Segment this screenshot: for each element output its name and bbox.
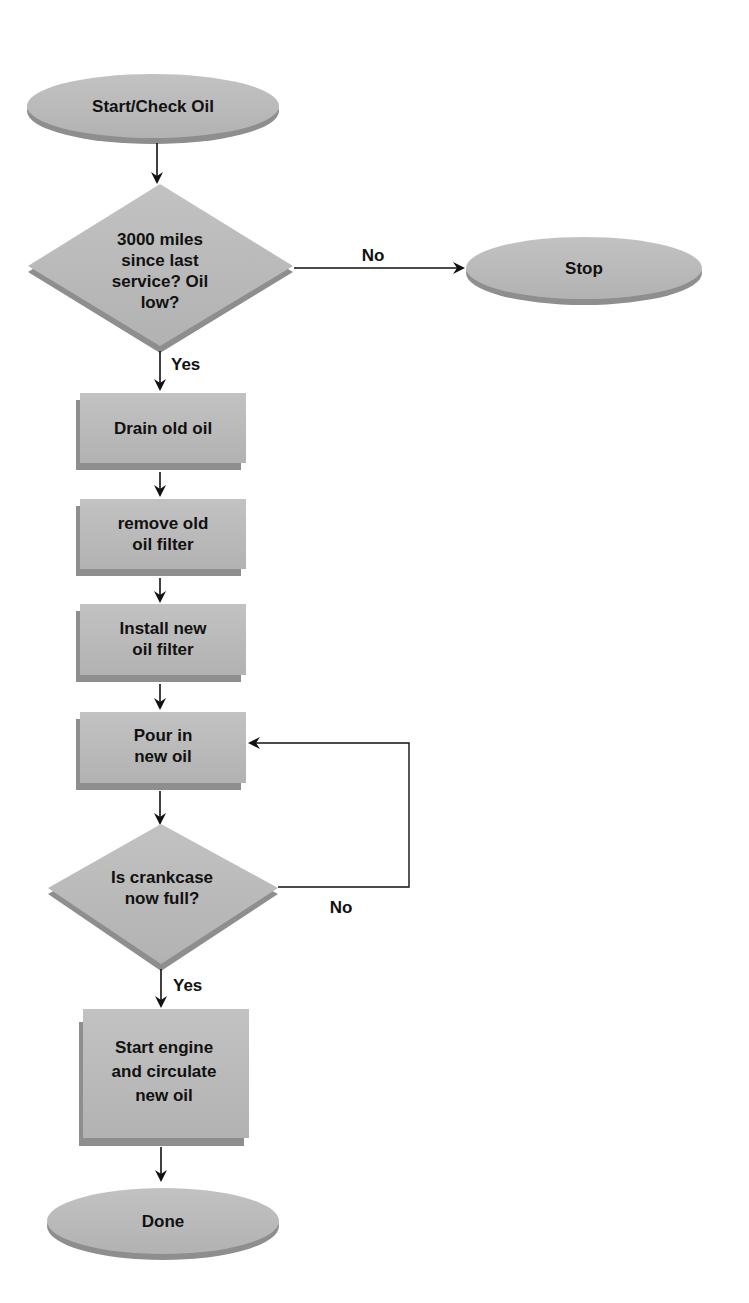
service-decision-label-line-2: since last [121, 251, 199, 270]
edge-label-full-yes: Yes [173, 976, 202, 995]
start-engine-process-label-line-2: and circulate [112, 1062, 217, 1081]
stop-terminal: Stop [466, 237, 702, 305]
install-filter-process-label-line-2: oil filter [132, 640, 194, 659]
start-engine-process: Start engine and circulate new oil [79, 1009, 249, 1146]
remove-filter-process-shape [80, 499, 246, 569]
start-engine-process-label-line-3: new oil [135, 1086, 193, 1105]
drain-process: Drain old oil [76, 393, 246, 470]
crankcase-full-decision-label-line-1: Is crankcase [111, 868, 213, 887]
service-decision-label-line-4: low? [141, 293, 180, 312]
pour-oil-process-label-line-1: Pour in [134, 726, 193, 745]
crankcase-full-decision-label-line-2: now full? [125, 889, 200, 908]
start-terminal: Start/Check Oil [27, 74, 279, 144]
service-decision-label-line-1: 3000 miles [117, 230, 203, 249]
edge-label-service-no: No [362, 246, 385, 265]
start-engine-process-label-line-1: Start engine [115, 1038, 213, 1057]
service-decision: 3000 miles since last service? Oil low? [28, 184, 293, 353]
start-terminal-label: Start/Check Oil [92, 97, 214, 116]
edge-label-full-no: No [330, 898, 353, 917]
done-terminal: Done [47, 1188, 279, 1260]
stop-terminal-label: Stop [565, 259, 603, 278]
install-filter-process-label-line-1: Install new [120, 619, 208, 638]
pour-oil-process: Pour in new oil [76, 712, 246, 790]
edge-full-decision-to-pour [250, 743, 409, 887]
service-decision-label-line-3: service? Oil [112, 272, 208, 291]
remove-filter-process: remove old oil filter [76, 499, 246, 576]
crankcase-full-decision: Is crankcase now full? [48, 824, 278, 971]
remove-filter-process-label-line-1: remove old [118, 514, 209, 533]
done-terminal-label: Done [142, 1212, 185, 1231]
edge-label-service-yes: Yes [171, 355, 200, 374]
pour-oil-process-label-line-2: new oil [134, 747, 192, 766]
flowchart-canvas: Start/Check Oil 3000 miles since last se… [0, 0, 749, 1303]
remove-filter-process-label-line-2: oil filter [132, 535, 194, 554]
drain-process-label: Drain old oil [114, 419, 212, 438]
install-filter-process: Install new oil filter [76, 604, 246, 682]
